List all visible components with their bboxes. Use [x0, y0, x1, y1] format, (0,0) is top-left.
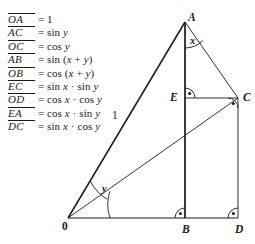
legend-row: EA = cos x · sin y [8, 107, 112, 120]
right-angle-dot-c [232, 102, 235, 105]
equals-sign: = [35, 120, 47, 132]
geometry-figure: OA = 1 AC = sin y OC = cos y AB = sin (x… [0, 0, 255, 244]
segment-name: EC [8, 80, 35, 93]
equals-sign: = [35, 53, 47, 65]
angle-label-y: y [102, 184, 107, 195]
segment-name: DC [8, 120, 35, 133]
right-angle-dot-d [232, 212, 235, 215]
equals-sign: = [35, 13, 47, 25]
equals-sign: = [35, 93, 47, 105]
angle-label-x: x [190, 36, 195, 47]
legend-row: AC = sin y [8, 26, 112, 39]
legend-row: OD = cos x · cos y [8, 93, 112, 106]
right-angle-dot-e [188, 92, 191, 95]
segment-name: OC [8, 40, 35, 53]
segment-legend: OA = 1 AC = sin y OC = cos y AB = sin (x… [8, 13, 112, 134]
segment-name: OD [8, 93, 35, 106]
equals-sign: = [35, 26, 47, 38]
legend-row: OA = 1 [8, 13, 112, 26]
segment-value: sin y [47, 26, 68, 38]
legend-row: EC = sin x · sin y [8, 80, 112, 93]
legend-row: OB = cos (x + y) [8, 67, 112, 80]
segment-value: 1 [47, 13, 53, 25]
segment-name: AB [8, 53, 35, 66]
point-label-e: E [170, 92, 178, 104]
segment-name: OA [8, 13, 35, 26]
segment-value: sin (x + y) [47, 53, 93, 65]
point-label-o: 0 [62, 221, 68, 233]
angle-arc-outer [108, 191, 110, 218]
point-label-c: C [243, 92, 251, 104]
line-ac [185, 22, 238, 98]
point-label-d: D [235, 224, 243, 236]
point-label-a: A [188, 12, 196, 24]
equals-sign: = [35, 67, 47, 79]
segment-name: AC [8, 26, 35, 39]
equals-sign: = [35, 40, 47, 52]
segment-value: cos x · cos y [47, 93, 102, 105]
equals-sign: = [35, 80, 47, 92]
segment-value: cos (x + y) [47, 67, 94, 79]
point-label-b: B [182, 224, 190, 236]
equals-sign: = [35, 107, 47, 119]
right-angle-dot-b [179, 212, 182, 215]
legend-row: DC = sin x · cos y [8, 120, 112, 133]
segment-value: cos y [47, 40, 70, 52]
segment-value: sin x · sin y [47, 80, 98, 92]
segment-name: OB [8, 67, 35, 80]
segment-value: cos x · sin y [47, 107, 100, 119]
segment-value: sin x · cos y [47, 120, 100, 132]
legend-row: AB = sin (x + y) [8, 53, 112, 66]
length-label-oa: 1 [112, 110, 118, 122]
legend-row: OC = cos y [8, 40, 112, 53]
segment-name: EA [8, 107, 35, 120]
